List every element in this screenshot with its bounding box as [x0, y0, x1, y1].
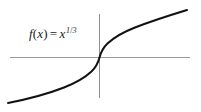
function-graph-figure: f(x)=x1/3 — [0, 0, 201, 112]
exponent-denominator: 3 — [73, 26, 77, 35]
plot-canvas — [0, 0, 201, 112]
function-equation-label: f(x)=x1/3 — [29, 27, 77, 40]
expression-base: x — [59, 26, 65, 41]
close-paren: ) — [43, 26, 48, 41]
exponent-fraction: 1/3 — [66, 26, 77, 35]
equals-sign: = — [50, 26, 58, 41]
